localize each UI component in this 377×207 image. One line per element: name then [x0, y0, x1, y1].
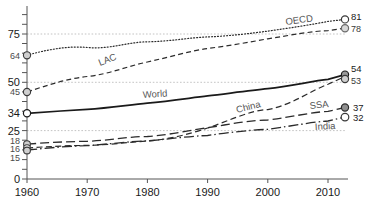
series-line-ssa	[27, 108, 345, 145]
x-tick-1990: 1990	[195, 186, 219, 198]
marker-india-start	[24, 147, 31, 154]
end-markers	[341, 16, 349, 121]
marker-oecd-end	[341, 16, 348, 23]
y-tick-64: 64	[10, 51, 20, 61]
marker-india-end	[341, 113, 349, 121]
marker-world-start	[23, 110, 30, 117]
y-tick-34: 34	[8, 107, 20, 119]
chart-canvas: 75 64 50 45 34 25 18 16 15 0 1960 1970 1…	[0, 0, 377, 207]
series-label-ssa: SSA	[309, 98, 330, 111]
gridlines	[27, 34, 345, 131]
y-tick-75: 75	[8, 28, 20, 40]
series-label-world: World	[142, 87, 167, 100]
end-value-lac: 78	[351, 24, 361, 34]
series-label-lac: LAC	[97, 51, 118, 68]
x-tick-1970: 1970	[75, 186, 99, 198]
y-tick-15: 15	[10, 153, 20, 163]
y-tick-0: 0	[14, 173, 20, 185]
end-value-china: 53	[351, 76, 361, 86]
y-tick-45: 45	[10, 87, 20, 97]
x-tick-2010: 2010	[316, 186, 340, 198]
marker-lac-start	[23, 88, 30, 95]
x-tick-2000: 2000	[256, 186, 280, 198]
marker-ssa-end	[341, 104, 348, 111]
x-tick-1960: 1960	[15, 186, 39, 198]
marker-oecd-start	[23, 52, 30, 59]
marker-lac-end	[341, 25, 348, 32]
series-label-china: China	[235, 98, 262, 115]
series-line-world	[27, 75, 345, 114]
end-value-oecd: 81	[351, 11, 362, 22]
series-label-india: India	[315, 120, 337, 132]
end-value-world: 54	[351, 63, 362, 74]
x-tickmarks	[27, 179, 328, 183]
x-tick-1980: 1980	[135, 186, 159, 198]
line-chart: 75 64 50 45 34 25 18 16 15 0 1960 1970 1…	[0, 0, 377, 207]
end-value-india: 32	[353, 112, 364, 123]
axes	[27, 6, 348, 179]
series-label-oecd: OECD	[285, 12, 314, 27]
marker-china-end	[341, 75, 348, 82]
